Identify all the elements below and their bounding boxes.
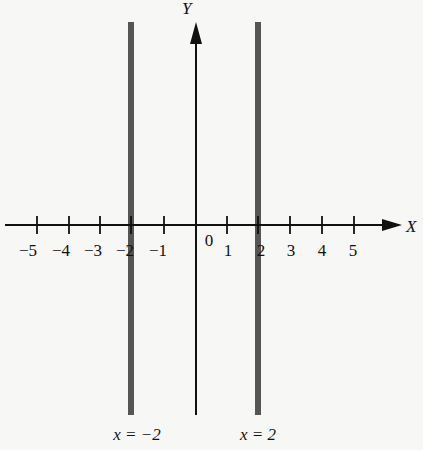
origin-label: 0 xyxy=(205,231,214,250)
tick-label: 5 xyxy=(349,241,358,260)
line-label-neg2: x = −2 xyxy=(112,425,161,444)
x-axis-arrow-icon xyxy=(382,219,402,231)
tick-label: −4 xyxy=(52,241,71,260)
tick-label: −2 xyxy=(116,241,134,260)
tick-label: 1 xyxy=(224,241,233,260)
y-axis-arrow-icon xyxy=(190,22,202,44)
tick-label: −5 xyxy=(19,241,37,260)
y-axis-label: Y xyxy=(182,0,193,18)
diagram: −5 −4 −3 −2 −1 1 2 3 4 5 0 X Y x = −2 x … xyxy=(0,0,423,450)
x-axis-label: X xyxy=(405,217,417,236)
tick-label: 2 xyxy=(257,241,266,260)
tick-label: 3 xyxy=(287,241,296,260)
tick-label: −1 xyxy=(149,241,167,260)
tick-label: −3 xyxy=(84,241,102,260)
line-label-2: x = 2 xyxy=(239,425,277,444)
tick-label: 4 xyxy=(318,241,327,260)
